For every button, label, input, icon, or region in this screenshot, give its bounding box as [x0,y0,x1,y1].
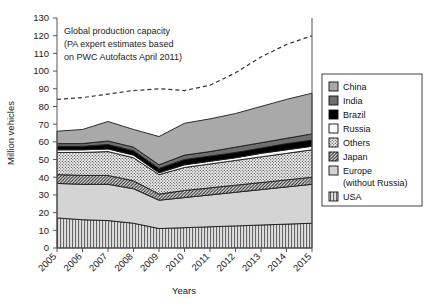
y-axis-title: Million vehicles [5,101,16,165]
legend-label-europe-sub: (without Russia) [343,178,408,188]
legend-swatch-russia [329,124,338,133]
legend-label-japan: Japan [343,152,368,162]
y-tick-label: 110 [34,48,49,59]
y-tick-label: 10 [38,225,49,236]
y-tick-label: 80 [38,101,49,112]
y-tick-label: 100 [33,65,49,76]
annotation-line-3: on PWC Autofacts April 2011) [64,52,182,62]
y-tick-label: 40 [38,172,49,183]
legend-label-china: China [343,82,367,92]
legend-swatch-japan [329,152,338,161]
chart-legend: ChinaIndiaBrazilRussiaOthersJapanEurope(… [322,74,422,206]
legend-label-europe: Europe [343,166,372,176]
y-tick-label: 20 [38,207,49,218]
legend-swatch-europe [329,166,338,175]
y-tick-label: 50 [38,154,49,165]
y-tick-label: 60 [38,136,49,147]
stacked-area-chart: 0102030405060708090100110120130 20052006… [0,0,431,307]
legend-swatch-brazil [329,110,338,119]
y-tick-label: 70 [38,119,49,130]
legend-label-russia: Russia [343,124,371,134]
legend-swatch-india [329,96,338,105]
legend-label-brazil: Brazil [343,110,366,120]
legend-label-india: India [343,96,363,106]
y-tick-label: 130 [33,12,49,23]
legend-swatch-china [329,82,338,91]
y-tick-label: 30 [38,189,49,200]
annotation-line-1: Global production capacity [64,26,171,36]
x-axis-title: Years [172,285,196,296]
legend-swatch-usa [329,192,338,201]
y-tick-label: 90 [38,83,49,94]
legend-label-others: Others [343,138,371,148]
annotation-line-2: (PA expert estimates based [64,39,173,49]
legend-label-usa: USA [343,192,362,202]
chart-container: 0102030405060708090100110120130 20052006… [0,0,431,307]
legend-swatch-others [329,138,338,147]
capacity-annotation: Global production capacity (PA expert es… [64,26,182,62]
y-tick-label: 120 [33,30,49,41]
